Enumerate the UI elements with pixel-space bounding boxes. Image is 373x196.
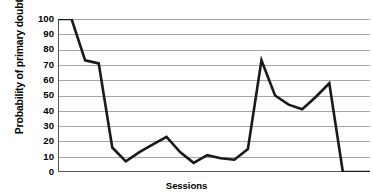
y-tick-90: 90 xyxy=(20,29,54,39)
plot-area xyxy=(58,19,370,172)
y-tick-50: 50 xyxy=(20,90,54,100)
chart-figure: will happen to my children Probability o… xyxy=(0,0,373,196)
chart-title: will happen to my children xyxy=(0,0,373,1)
y-tick-0: 0 xyxy=(20,167,54,177)
y-tick-30: 30 xyxy=(20,121,54,131)
y-tick-10: 10 xyxy=(20,152,54,162)
y-tick-60: 60 xyxy=(20,75,54,85)
y-tick-20: 20 xyxy=(20,136,54,146)
y-tick-40: 40 xyxy=(20,106,54,116)
y-tick-70: 70 xyxy=(20,60,54,70)
x-axis-title: Sessions xyxy=(0,180,373,191)
data-series-line xyxy=(58,19,370,172)
line-chart-svg xyxy=(58,19,370,172)
y-tick-100: 100 xyxy=(20,14,54,24)
y-axis-tick-labels: 100 90 80 70 60 50 40 30 20 10 0 xyxy=(16,0,54,196)
y-tick-80: 80 xyxy=(20,44,54,54)
